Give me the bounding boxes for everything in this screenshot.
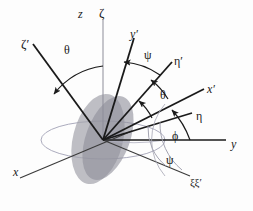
label-zeta: ζ [99,6,104,19]
figure-canvas: z ζ ζ′ θ y′ ψ η′ x′ θ η ϕ y ψ ξξ′ x [0,0,253,211]
label-psi-top: ψ [144,49,152,61]
label-y-prime: y′ [130,28,138,40]
label-x-prime: x′ [207,83,215,95]
label-phi: ϕ [172,130,178,142]
label-theta-mid: θ [160,89,166,101]
zeta-prime-axis-line [33,44,103,140]
label-y: y [231,138,236,150]
label-eta-prime: η′ [174,55,183,67]
label-x: x [13,166,18,178]
label-xi-xi-prime: ξξ′ [190,177,202,188]
label-psi-bottom: ψ [166,154,174,166]
psi-top-arc [124,62,160,75]
label-theta-left: θ [64,44,70,56]
label-zeta-prime: ζ′ [21,37,29,50]
euler-angle-diagram [0,0,253,211]
theta-left-arc [54,66,103,94]
label-z: z [78,8,83,20]
theta-mid-inner-arc [139,101,152,118]
label-eta: η [196,110,202,122]
